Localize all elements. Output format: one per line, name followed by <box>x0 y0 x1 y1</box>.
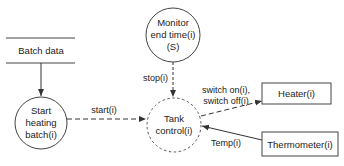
heater-label: Heater(i) <box>278 88 315 99</box>
flow-stop-label: stop(i) <box>143 73 168 83</box>
thermometer-label: Thermometer(i) <box>267 139 332 150</box>
tank-line-1: Tank <box>164 113 184 124</box>
monitor-line-3: (S) <box>167 41 180 52</box>
external-heater: Heater(i) <box>262 83 331 104</box>
start-line-1: Start <box>31 105 51 116</box>
flow-switch-label-2: switch off(i) <box>203 96 248 106</box>
flow-switch-label-1: switch on(i), <box>202 85 250 95</box>
process-start-heating-batch: Start heating batch(i) <box>15 97 67 149</box>
flow-start-label: start(i) <box>91 105 117 115</box>
tank-line-2: control(i) <box>156 125 193 136</box>
start-line-2: heating <box>25 117 56 128</box>
data-store-batch-data: Batch data <box>6 38 75 63</box>
flow-temp-label: Temp(i) <box>211 138 241 148</box>
external-thermometer: Thermometer(i) <box>262 132 338 156</box>
process-monitor-end-time: Monitor end time(i) (S) <box>146 8 200 62</box>
dataflow-diagram: Batch data Start heating batch(i) Monito… <box>0 0 344 166</box>
batch-data-label: Batch data <box>18 45 64 56</box>
process-tank-control: Tank control(i) <box>147 98 201 152</box>
monitor-line-1: Monitor <box>157 17 189 28</box>
monitor-line-2: end time(i) <box>151 29 196 40</box>
start-line-3: batch(i) <box>25 129 57 140</box>
